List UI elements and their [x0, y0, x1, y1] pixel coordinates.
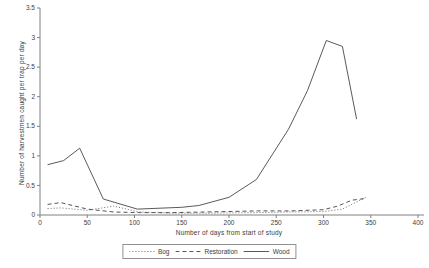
y-tick-label: 0.5 [26, 182, 35, 189]
x-tick-label: 350 [365, 219, 376, 226]
y-tick-label: 1 [31, 152, 35, 159]
y-tick-label: 2.5 [26, 63, 35, 70]
legend-item-bog: Bog [129, 248, 170, 255]
chart-svg: 05010015020025030035040000.511.522.533.5 [0, 0, 429, 268]
series-line-wood [48, 41, 357, 210]
y-tick-label: 2 [31, 93, 35, 100]
series-line-restoration [48, 198, 366, 212]
legend-swatch-bog [129, 249, 155, 254]
x-tick-label: 200 [224, 219, 235, 226]
legend-item-wood: Wood [244, 248, 290, 255]
x-tick-label: 0 [38, 219, 42, 226]
y-tick-label: 3 [31, 34, 35, 41]
legend-label-wood: Wood [273, 248, 290, 255]
legend-swatch-wood [244, 249, 270, 254]
x-axis-label: Number of days from start of study [40, 229, 418, 236]
legend-label-bog: Bog [158, 248, 170, 255]
legend-swatch-restoration [175, 249, 201, 254]
chart-container: 05010015020025030035040000.511.522.533.5… [0, 0, 429, 268]
x-tick-label: 300 [318, 219, 329, 226]
legend: BogRestorationWood [122, 244, 297, 259]
legend-label-restoration: Restoration [204, 248, 237, 255]
x-tick-label: 250 [271, 219, 282, 226]
legend-item-restoration: Restoration [175, 248, 237, 255]
y-tick-label: 1.5 [26, 122, 35, 129]
x-tick-label: 100 [129, 219, 140, 226]
series-line-bog [48, 197, 366, 213]
y-tick-label: 0 [31, 211, 35, 218]
y-axis-label: Number of harvestmen caught per trap per… [18, 41, 25, 185]
x-tick-label: 150 [176, 219, 187, 226]
x-tick-label: 400 [413, 219, 424, 226]
x-tick-label: 50 [84, 219, 92, 226]
y-tick-label: 3.5 [26, 4, 35, 11]
